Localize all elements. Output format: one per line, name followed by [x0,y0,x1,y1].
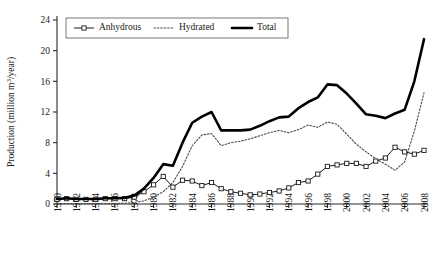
legend-marker-anhydrous [82,26,86,30]
series-marker-anhydrous [180,178,184,182]
series-marker-anhydrous [229,190,233,194]
y-tick-label: 24 [41,15,51,25]
series-marker-anhydrous [383,156,387,160]
chart-legend: AnhydrousHydratedTotal [66,18,288,38]
y-tick-label: 20 [41,46,51,56]
y-tick-label: 12 [41,107,51,117]
x-tick-label: 1984 [188,193,198,212]
legend-label: Total [257,22,277,32]
x-tick-label: 1980 [149,193,159,212]
x-tick-label: 2000 [342,193,352,212]
x-tick-label: 2002 [362,193,372,212]
series-marker-anhydrous [248,193,252,197]
series-marker-anhydrous [287,186,291,190]
x-tick-label: 1998 [323,193,333,212]
series-marker-anhydrous [238,191,242,195]
series-marker-anhydrous [393,145,397,149]
series-marker-anhydrous [354,161,358,165]
y-tick-label: 0 [45,199,50,209]
series-marker-anhydrous [325,164,329,168]
x-tick-label: 1974 [91,193,101,212]
series-marker-anhydrous [316,172,320,176]
x-tick-label: 1976 [110,193,120,212]
series-marker-anhydrous [403,150,407,154]
series-marker-anhydrous [267,190,271,194]
x-tick-label: 2006 [400,193,410,212]
series-marker-anhydrous [258,192,262,196]
y-axis-title: Production (million m3/year) [5,57,17,167]
x-tick-label: 1982 [168,193,178,212]
series-marker-anhydrous [200,184,204,188]
x-tick-label: 1970 [53,193,63,212]
x-tick-label: 2008 [420,193,430,212]
x-tick-label: 1994 [284,193,294,212]
series-marker-anhydrous [190,179,194,183]
x-tick-label: 1988 [226,193,236,212]
legend-label: Anhydrous [99,22,142,32]
series-marker-anhydrous [151,183,155,187]
y-tick-label: 8 [45,138,50,148]
legend-label: Hydrated [179,22,215,32]
series-marker-anhydrous [219,187,223,191]
x-tick-label: 1992 [265,193,275,212]
production-line-chart: 04812162024 1970197219741976197819801982… [0,0,440,270]
y-tick-label: 4 [45,169,50,179]
series-marker-anhydrous [209,180,213,184]
chart-figure: 04812162024 1970197219741976197819801982… [0,0,440,270]
series-marker-anhydrous [296,180,300,184]
x-tick-label: 2004 [381,193,391,212]
series-marker-anhydrous [161,174,165,178]
x-tick-label: 1972 [72,193,82,212]
series-marker-anhydrous [171,185,175,189]
series-marker-anhydrous [364,164,368,168]
series-marker-anhydrous [306,179,310,183]
series-marker-anhydrous [335,163,339,167]
series-marker-anhydrous [277,189,281,193]
series-marker-anhydrous [422,148,426,152]
x-tick-label: 1986 [207,193,217,212]
series-marker-anhydrous [345,161,349,165]
series-marker-anhydrous [374,159,378,163]
y-tick-label: 16 [41,77,51,87]
chart-background [0,0,440,270]
series-marker-anhydrous [412,152,416,156]
x-tick-label: 1996 [304,193,314,212]
